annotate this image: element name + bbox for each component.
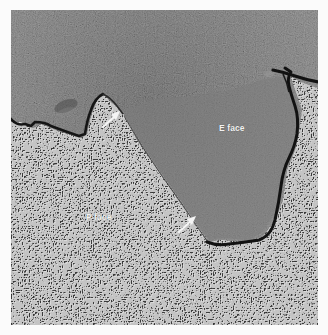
micrograph-image: E face P face — [11, 10, 318, 325]
p-face-label: P face — [86, 212, 112, 222]
e-face-label: E face — [219, 123, 245, 133]
micrograph-svg — [11, 10, 318, 325]
